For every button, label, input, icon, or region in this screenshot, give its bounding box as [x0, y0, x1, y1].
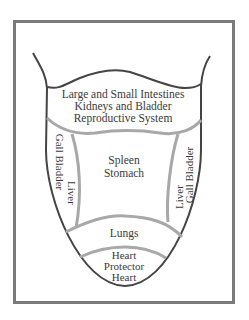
- label-heart-2: Heart: [112, 271, 136, 283]
- tongue-diagram: Large and Small Intestines Kidneys and B…: [0, 0, 249, 320]
- label-left-gall-bladder: Gall Bladder: [54, 134, 66, 191]
- back-region-top-edge: [47, 70, 201, 88]
- label-left-liver: Liver: [66, 181, 78, 205]
- label-reproductive-system: Reproductive System: [74, 112, 173, 125]
- label-stomach: Stomach: [104, 167, 144, 179]
- label-right-gall-bladder: Gall Bladder: [183, 146, 195, 203]
- label-spleen: Spleen: [108, 154, 140, 167]
- label-lungs: Lungs: [110, 227, 139, 240]
